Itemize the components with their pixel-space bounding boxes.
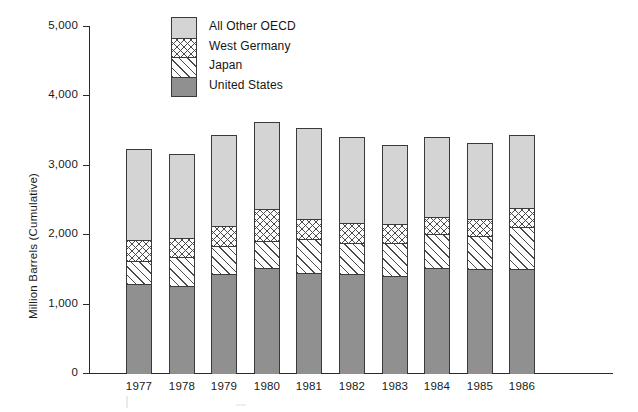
bar-segment <box>340 274 364 374</box>
bar-stack <box>382 145 408 373</box>
bar-segment <box>510 227 534 269</box>
bar-segment <box>383 276 407 374</box>
x-axis-tick-label: 1980 <box>244 380 290 392</box>
bar-segment <box>297 219 321 239</box>
bar-stack <box>126 149 152 373</box>
bar-stack <box>169 154 195 373</box>
bar-segment <box>127 261 151 284</box>
bar-segment <box>297 273 321 374</box>
bar-segment <box>170 238 194 257</box>
bar-segment <box>383 224 407 243</box>
bar-segment <box>340 223 364 243</box>
bar-stack <box>296 128 322 373</box>
bar-stack <box>509 135 535 373</box>
x-axis-tick-label: 1986 <box>499 380 545 392</box>
x-axis-tick-label: 1984 <box>414 380 460 392</box>
bar-segment <box>297 129 321 219</box>
bar-segment <box>212 246 236 274</box>
legend-swatch <box>172 18 196 38</box>
x-axis-tick-label: 1983 <box>372 380 418 392</box>
legend-label: Japan <box>209 59 242 72</box>
bar-segment <box>425 138 449 217</box>
bar-segment <box>510 136 534 208</box>
bar-segment <box>212 136 236 226</box>
x-axis-tick-label: 1977 <box>116 380 162 392</box>
chart-legend: All Other OECDWest GermanyJapanUnited St… <box>171 17 346 99</box>
bar-segment <box>383 243 407 276</box>
bar-segment <box>468 269 492 374</box>
bar-stack <box>467 143 493 373</box>
bar-segment <box>255 209 279 241</box>
bar-segment <box>127 284 151 374</box>
bar-segment <box>383 146 407 224</box>
bar-segment <box>468 144 492 219</box>
bar-segment <box>510 208 534 227</box>
bar-stack <box>254 122 280 373</box>
bar-segment <box>127 150 151 240</box>
stacked-bar-chart: Million Barrels (Cumulative) 01,0002,000… <box>0 0 638 412</box>
bar-stack <box>424 137 450 373</box>
legend-swatch <box>172 57 196 77</box>
bar-stack <box>211 135 237 373</box>
legend-label: United States <box>209 79 283 92</box>
x-axis-tick-label: 1985 <box>457 380 503 392</box>
bar-segment <box>170 286 194 374</box>
x-axis-tick-label: 1981 <box>286 380 332 392</box>
bar-segment <box>255 123 279 209</box>
x-axis-tick-label: 1978 <box>159 380 205 392</box>
bar-segment <box>425 217 449 234</box>
bar-segment <box>212 226 236 246</box>
x-axis-tick-label: 1982 <box>329 380 375 392</box>
bar-segment <box>297 239 321 273</box>
bar-segment <box>340 243 364 274</box>
legend-swatch <box>172 38 196 58</box>
bar-segment <box>510 269 534 374</box>
legend-swatch <box>172 77 196 97</box>
bar-segment <box>127 240 151 261</box>
bar-segment <box>468 219 492 236</box>
legend-label: All Other OECD <box>209 20 296 33</box>
bar-stack <box>339 137 365 373</box>
bar-segment <box>425 234 449 268</box>
bar-segment <box>340 138 364 223</box>
legend-swatch-box <box>171 17 197 97</box>
bar-segment <box>425 268 449 374</box>
bar-segment <box>212 274 236 374</box>
legend-label: West Germany <box>209 40 291 53</box>
bar-segment <box>170 155 194 238</box>
x-axis-tick-label: 1979 <box>201 380 247 392</box>
bar-segment <box>170 257 194 286</box>
bar-segment <box>255 241 279 268</box>
bar-segment <box>468 236 492 269</box>
bar-segment <box>255 268 279 374</box>
